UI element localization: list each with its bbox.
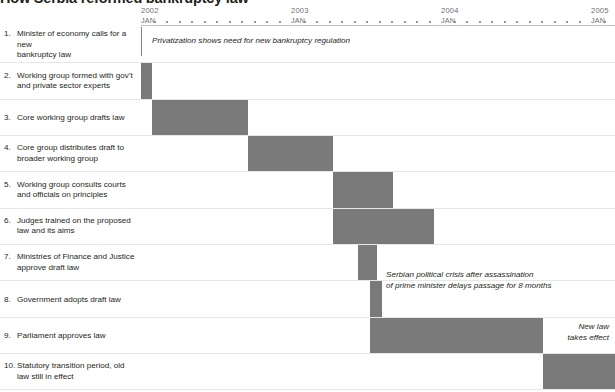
axis-tick-dot [179, 21, 181, 23]
task-label: 2.Working group formed with gov'tand pri… [4, 71, 136, 92]
gantt-chart: How Serbia reformed bankruptcy law 20022… [0, 0, 615, 392]
axis-tick-dot [516, 21, 518, 23]
axis-tick-dot [554, 21, 556, 23]
axis-year-2005: 2005 [591, 6, 609, 15]
axis-tick-dot [354, 21, 356, 23]
axis-tick-dot [204, 21, 206, 23]
task-number: 2. [4, 71, 17, 82]
axis-month-2002: JAN [141, 16, 155, 25]
task-label: 10.Statutory transition period, old law … [4, 362, 136, 383]
task-label: 1.Minister of economy calls for a newban… [4, 29, 136, 61]
task-number: 9. [4, 331, 17, 342]
task-number: 7. [4, 253, 17, 264]
axis-tick-dot [304, 21, 306, 23]
axis-tick-dot [466, 21, 468, 23]
axis-tick-dot [529, 21, 531, 23]
task-row[interactable]: 5.Working group consults courts and offi… [0, 172, 615, 208]
axis-tick-dot [254, 21, 256, 23]
annotation-privatization: Privatization shows need for new bankrup… [152, 36, 350, 47]
axis-tick-dot [191, 21, 193, 23]
task-text: Minister of economy calls for a newbankr… [17, 29, 136, 61]
axis-tick-dot [491, 21, 493, 23]
task-number: 4. [4, 144, 17, 155]
task-bar[interactable] [333, 172, 393, 208]
axis-tick-dot [504, 21, 506, 23]
task-row[interactable]: 4.Core group distributes draft to broade… [0, 136, 615, 172]
axis-year-2003: 2003 [291, 6, 309, 15]
task-number: 10. [4, 362, 17, 373]
task-label: 9.Parliament approves law [4, 331, 136, 342]
task-bar[interactable] [248, 136, 333, 172]
axis-tick-dot [379, 21, 381, 23]
task-label: 6.Judges trained on the proposed law and… [4, 216, 136, 237]
axis-tick-dot [229, 21, 231, 23]
axis-tick-dot [154, 21, 156, 23]
axis-tick-dot [316, 21, 318, 23]
task-text: Statutory transition period, old law sti… [17, 362, 136, 383]
task-bar[interactable] [370, 318, 543, 354]
axis-tick-dot [404, 21, 406, 23]
task-label: 4.Core group distributes draft to broade… [4, 144, 136, 165]
axis-tick-dot [216, 21, 218, 23]
axis-tick-dot [279, 21, 281, 23]
task-label: 7.Ministries of Finance and Justice appr… [4, 253, 136, 274]
task-text: Government adopts draft law [17, 294, 136, 305]
axis-tick-dot [541, 21, 543, 23]
axis-tick-dot [454, 21, 456, 23]
task-bar[interactable] [333, 209, 434, 245]
axis-tick-dot [416, 21, 418, 23]
task-number: 6. [4, 216, 17, 227]
axis-tick-dot [579, 21, 581, 23]
task-bar[interactable] [543, 354, 615, 390]
axis-month-2005: JAN [591, 16, 605, 25]
task-text: Judges trained on the proposed law and i… [17, 216, 136, 237]
axis-tick-dot [479, 21, 481, 23]
task-text: Working group formed with gov'tand priva… [17, 71, 136, 92]
axis-tick-dot [166, 21, 168, 23]
axis-tick-dot [391, 21, 393, 23]
task-bar[interactable] [152, 100, 248, 136]
task-row[interactable]: 2.Working group formed with gov'tand pri… [0, 63, 615, 99]
axis-month-2004: JAN [441, 16, 455, 25]
axis-tick-dot [566, 21, 568, 23]
task-number: 5. [4, 180, 17, 191]
axis-rule [141, 25, 615, 26]
axis-tick-dot [329, 21, 331, 23]
task-bar[interactable] [358, 245, 377, 281]
task-bar[interactable] [141, 63, 152, 99]
task-row[interactable]: 6.Judges trained on the proposed law and… [0, 209, 615, 245]
annotation-new-law: New law takes effect [519, 322, 609, 344]
task-text: Core group distributes draft to broader … [17, 144, 136, 165]
row-separator [0, 389, 615, 390]
task-text: Ministries of Finance and Justice approv… [17, 253, 136, 274]
task-label: 5.Working group consults courts and offi… [4, 180, 136, 201]
axis-tick-dot [241, 21, 243, 23]
axis-year-2002: 2002 [141, 6, 159, 15]
task-number: 8. [4, 294, 17, 305]
axis-tick-dot [366, 21, 368, 23]
axis-tick-dot [429, 21, 431, 23]
axis-year-2004: 2004 [441, 6, 459, 15]
axis-tick-dot [604, 21, 606, 23]
task-text: Core working group drafts law [17, 113, 136, 124]
annotation-crisis: Serbian political crisis after assassina… [386, 270, 552, 292]
task-number: 3. [4, 113, 17, 124]
task-row[interactable]: 10.Statutory transition period, old law … [0, 354, 615, 390]
task-row[interactable]: 3.Core working group drafts law [0, 100, 615, 136]
axis-tick-dot [341, 21, 343, 23]
axis-month-2003: JAN [291, 16, 305, 25]
axis-tick-dot [266, 21, 268, 23]
task-bar[interactable] [370, 281, 382, 317]
task-number: 1. [4, 29, 17, 40]
task-label: 8.Government adopts draft law [4, 294, 136, 305]
task-label: 3.Core working group drafts law [4, 113, 136, 124]
task-text: Parliament approves law [17, 331, 136, 342]
task-text: Working group consults courts and offici… [17, 180, 136, 201]
